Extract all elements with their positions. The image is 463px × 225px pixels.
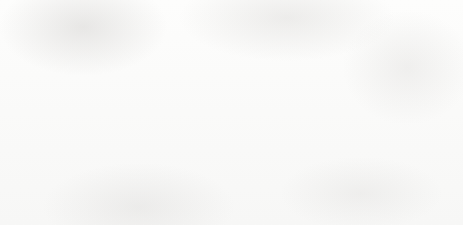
bar-1975[interactable]: 45: [222, 59, 250, 180]
bar-value-label: 47: [71, 38, 83, 51]
chart-legend: 1975 2007: [380, 20, 437, 50]
legend-swatch-icon: [380, 22, 406, 31]
x-tick-label: Under 6 years: [211, 183, 291, 194]
x-tick-label: 6 to 17: [131, 183, 211, 194]
bar-2007[interactable]: 55: [410, 32, 438, 180]
x-tick-label: Under 18 years: [51, 183, 131, 194]
x-tick-label: Under 3 years: [290, 183, 370, 194]
y-axis-label: Percent: [14, 95, 25, 131]
bar-value-label: 45: [230, 44, 242, 57]
bar-value-label: 55: [151, 17, 163, 30]
chart-footnote: *Married mothers: [78, 210, 161, 221]
legend-label: 1975: [413, 21, 437, 32]
bar-pair: 47 71: [63, 16, 119, 180]
bar-2007[interactable]: 60: [330, 19, 358, 180]
bar-pair: 34 60: [302, 16, 358, 180]
bar-2007[interactable]: 63.5: [250, 9, 278, 180]
bar-group: 55 78: [131, 16, 211, 180]
bar-value-label: 34: [310, 74, 322, 87]
bar-chart: 100 80 60 40 20 0 47 71: [0, 0, 463, 225]
legend-label: 2007: [413, 36, 437, 47]
bar-1975[interactable]: 34: [302, 89, 330, 180]
x-axis-categories: Under 18 years 6 to 17 Under 6 years Und…: [51, 183, 450, 194]
x-tick-label: Under 1 year: [370, 183, 450, 194]
bar-1975[interactable]: 31*: [382, 97, 410, 180]
bar-group: 45 63.5: [211, 16, 291, 180]
bar-pair: 55 78: [143, 16, 199, 180]
bar-1975[interactable]: 55: [143, 32, 171, 180]
bar-2007[interactable]: 71: [91, 0, 119, 180]
bar-1975[interactable]: 47: [63, 54, 91, 180]
legend-item-2007[interactable]: 2007: [380, 35, 437, 48]
bar-value-label: 60: [338, 3, 350, 16]
bar-value-label: 31*: [388, 82, 404, 95]
bar-value-label: 63.5: [254, 0, 275, 7]
bar-group: 34 60: [290, 16, 370, 180]
bar-2007[interactable]: 78: [171, 0, 199, 180]
legend-item-1975[interactable]: 1975: [380, 20, 437, 33]
bar-group: 47 71: [51, 16, 131, 180]
legend-swatch-icon: [380, 37, 406, 46]
x-axis-label: Age of youngest child: [51, 198, 450, 209]
bar-pair: 45 63.5: [222, 16, 278, 180]
